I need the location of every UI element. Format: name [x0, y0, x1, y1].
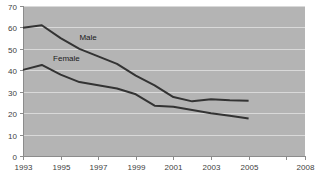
x-axis-tick-label: 1995 [53, 163, 71, 172]
y-axis-tick-label: 10 [8, 132, 17, 141]
y-axis-tick-label: 30 [8, 89, 17, 98]
y-axis-ticks: 010203040506070 [8, 3, 23, 162]
plot-background [23, 6, 305, 156]
x-axis-tick-label: 2005 [241, 163, 259, 172]
y-axis-tick-label: 0 [13, 153, 18, 162]
y-axis-tick-label: 70 [8, 3, 17, 12]
x-axis-tick-label: 2001 [165, 163, 183, 172]
series-label-female: Female [53, 54, 80, 63]
y-axis-tick-label: 50 [8, 46, 17, 55]
line-chart: 010203040506070 199319951997199920012003… [0, 0, 316, 189]
y-axis-tick-label: 60 [8, 24, 17, 33]
x-axis-ticks: 19931995199719992001200320052008 [15, 156, 315, 172]
y-axis-tick-label: 40 [8, 67, 17, 76]
series-label-male: Male [79, 33, 97, 42]
x-axis-tick-label: 2008 [297, 163, 315, 172]
x-axis-tick-label: 1997 [90, 163, 108, 172]
x-axis-tick-label: 1999 [128, 163, 146, 172]
x-axis-tick-label: 2003 [203, 163, 221, 172]
x-axis-tick-label: 1993 [15, 163, 33, 172]
chart-container: 010203040506070 199319951997199920012003… [0, 0, 316, 189]
y-axis-tick-label: 20 [8, 110, 17, 119]
